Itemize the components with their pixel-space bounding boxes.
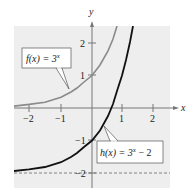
x-axis-label: x bbox=[180, 102, 186, 113]
y-tick-label: 1 bbox=[80, 70, 85, 81]
x-axis-arrow-icon bbox=[173, 106, 179, 110]
x-tick-label: 1 bbox=[119, 113, 124, 124]
svg-text:h(x) = 3x − 2: h(x) = 3x − 2 bbox=[100, 146, 152, 159]
chart: x y −2 −1 1 2 2 1 −1 −2 f(x) = 3x h(x) =… bbox=[0, 0, 189, 195]
svg-text:f(x) = 3x: f(x) = 3x bbox=[26, 52, 61, 65]
y-axis-label: y bbox=[88, 6, 94, 17]
h-label: h(x) = 3 bbox=[100, 147, 133, 159]
y-tick-label: −1 bbox=[75, 135, 86, 146]
h-label-tail: − 2 bbox=[136, 147, 152, 158]
x-tick-label: −1 bbox=[55, 113, 66, 124]
y-tick-label: 2 bbox=[80, 38, 85, 49]
y-axis-arrow-icon bbox=[90, 21, 94, 27]
x-tick-label: −2 bbox=[23, 113, 34, 124]
f-label: f(x) = 3 bbox=[26, 53, 57, 65]
y-tick-label: −2 bbox=[75, 168, 86, 179]
x-tick-label: 2 bbox=[150, 113, 155, 124]
